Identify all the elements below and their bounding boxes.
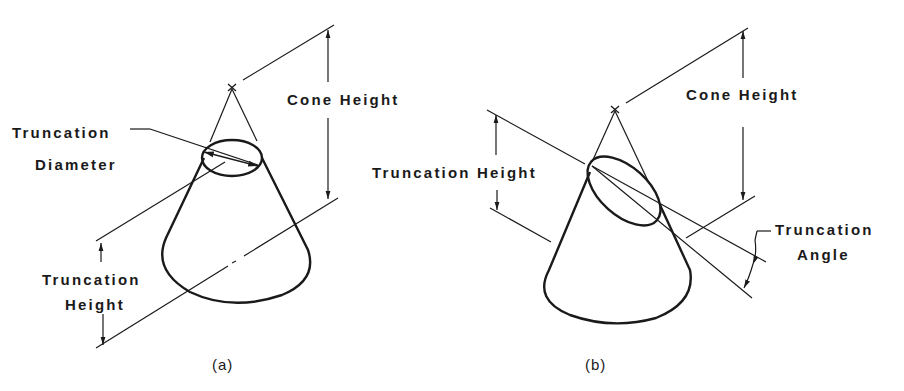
- caption-a: (a): [212, 357, 233, 372]
- cone-body: [544, 172, 691, 323]
- label-truncation-angle-line2: Angle: [797, 247, 850, 262]
- figure-a: [96, 25, 338, 348]
- cone-body: [162, 158, 310, 303]
- label-truncation-height-a-line2: Height: [65, 297, 125, 312]
- truncation-ellipse: [575, 144, 673, 239]
- cone-diagrams: [0, 0, 904, 391]
- label-cone-height-b: Cone Height: [686, 87, 799, 102]
- caption-b: (b): [585, 357, 606, 372]
- label-truncation-height-b: Truncation Height: [372, 165, 537, 180]
- label-truncation-diameter-line1: Truncation: [12, 125, 111, 140]
- label-truncation-diameter-line2: Diameter: [35, 157, 117, 172]
- label-cone-height-a: Cone Height: [287, 92, 400, 107]
- label-truncation-height-a-line1: Truncation: [42, 272, 141, 287]
- label-truncation-angle-line1: Truncation: [775, 222, 874, 237]
